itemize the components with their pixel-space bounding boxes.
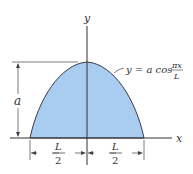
left-width-denominator: 2 <box>55 155 61 166</box>
equation-leader-line <box>114 68 124 73</box>
height-label: a <box>14 94 21 108</box>
arrow-down-icon <box>16 132 20 137</box>
x-axis-label: x <box>176 132 183 145</box>
arrow-up-icon <box>16 63 20 68</box>
y-axis-label: y <box>83 12 91 25</box>
arrow-right-icon <box>138 151 143 155</box>
equation-denominator: L <box>173 72 179 81</box>
arrow-left-icon <box>88 151 93 155</box>
equation-lhs: y = a cos <box>125 64 172 75</box>
equation-numerator: πx <box>171 61 182 70</box>
arrow-left-icon <box>31 151 36 155</box>
left-width-numerator: L <box>54 141 62 152</box>
right-width-denominator: 2 <box>112 155 118 166</box>
cosine-area-diagram: x y a y = a cos πx L L 2 L 2 <box>0 0 193 174</box>
arrow-right-icon <box>81 151 86 155</box>
right-width-numerator: L <box>111 141 119 152</box>
